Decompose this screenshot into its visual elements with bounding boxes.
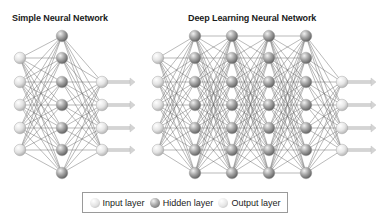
hidden-node (226, 30, 238, 42)
legend-item-input: Input layer (90, 198, 145, 208)
hidden-node (263, 167, 275, 179)
hidden-node (300, 30, 312, 42)
connection-edge (158, 36, 195, 105)
output-node (96, 99, 108, 111)
hidden-node (189, 99, 201, 111)
neural-network-diagram (0, 0, 387, 222)
legend-label-output: Output layer (231, 198, 280, 208)
connection-edge (158, 36, 195, 150)
hidden-node (300, 122, 312, 134)
arrowhead-icon (371, 146, 376, 154)
connection-edge (306, 58, 342, 82)
hidden-node (189, 167, 201, 179)
hidden-node (226, 52, 238, 64)
arrowhead-icon (371, 78, 376, 86)
output-arrow-icon (346, 126, 371, 129)
hidden-node (226, 122, 238, 134)
hidden-node (56, 30, 68, 42)
connection-edge (306, 58, 342, 128)
input-node (152, 52, 164, 64)
input-node (14, 99, 26, 111)
connection-edge (62, 36, 102, 82)
output-node (96, 122, 108, 134)
hidden-node (226, 99, 238, 111)
hidden-node (189, 52, 201, 64)
legend: Input layer Hidden layer Output layer (82, 192, 288, 213)
connection-edge (62, 58, 102, 105)
hidden-node (56, 122, 68, 134)
connection-edge (20, 36, 62, 82)
hidden-node (189, 76, 201, 88)
simple-network (14, 30, 135, 179)
connection-edge (62, 58, 102, 82)
input-node (152, 76, 164, 88)
hidden-node (56, 167, 68, 179)
output-node (336, 144, 348, 156)
connection-edge (158, 36, 195, 58)
connection-edge (158, 150, 195, 173)
hidden-node (263, 30, 275, 42)
connection-edge (20, 36, 62, 58)
output-arrow-icon (106, 80, 130, 83)
hidden-node (189, 122, 201, 134)
connection-edge (20, 36, 62, 105)
hidden-node (226, 167, 238, 179)
output-arrow-icon (106, 103, 130, 106)
input-node (14, 144, 26, 156)
input-node (152, 122, 164, 134)
arrowhead-icon (130, 124, 135, 132)
deep-network (152, 30, 376, 179)
connection-edge (62, 82, 102, 173)
arrowhead-icon (371, 101, 376, 109)
connection-edge (20, 36, 62, 150)
hidden-node (300, 52, 312, 64)
input-node (14, 122, 26, 134)
hidden-node (56, 144, 68, 156)
output-arrow-icon (106, 148, 130, 151)
arrowhead-icon (130, 101, 135, 109)
hidden-node (263, 144, 275, 156)
connection-edge (306, 105, 342, 173)
input-node (14, 76, 26, 88)
hidden-node (226, 144, 238, 156)
output-node (96, 144, 108, 156)
arrowhead-icon (130, 146, 135, 154)
connection-edge (62, 36, 102, 105)
output-node-icon (218, 198, 228, 208)
legend-item-hidden: Hidden layer (150, 198, 214, 208)
output-arrow-icon (346, 80, 371, 83)
output-node (336, 76, 348, 88)
output-node (336, 122, 348, 134)
hidden-node (56, 52, 68, 64)
connection-edge (62, 128, 102, 173)
hidden-node (300, 76, 312, 88)
connection-edge (306, 36, 342, 105)
hidden-node-icon (150, 198, 160, 208)
hidden-node (189, 144, 201, 156)
hidden-node (263, 52, 275, 64)
legend-item-output: Output layer (218, 198, 280, 208)
connection-edge (62, 150, 102, 173)
hidden-node (189, 30, 201, 42)
connection-edge (62, 58, 102, 150)
hidden-node (300, 144, 312, 156)
connection-edge (20, 150, 62, 173)
output-node (96, 76, 108, 88)
hidden-node (300, 167, 312, 179)
hidden-node (56, 99, 68, 111)
input-node (152, 99, 164, 111)
connection-edge (62, 58, 102, 128)
arrowhead-icon (130, 78, 135, 86)
legend-label-hidden: Hidden layer (163, 198, 214, 208)
output-arrow-icon (346, 148, 371, 151)
connection-edge (20, 128, 62, 173)
output-arrow-icon (106, 126, 130, 129)
legend-label-input: Input layer (103, 198, 145, 208)
input-node (152, 144, 164, 156)
hidden-node (300, 99, 312, 111)
connection-edge (306, 150, 342, 173)
hidden-node (56, 76, 68, 88)
arrowhead-icon (371, 124, 376, 132)
hidden-node (263, 76, 275, 88)
connection-edge (62, 105, 102, 173)
